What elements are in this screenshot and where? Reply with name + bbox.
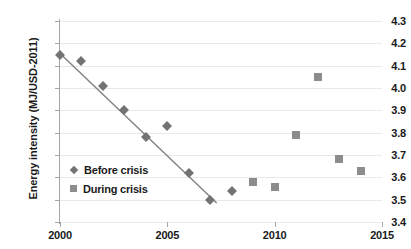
- data-point-during-crisis: [314, 73, 322, 81]
- legend-label-during-crisis: During crisis: [83, 183, 148, 195]
- data-point-during-crisis: [335, 155, 343, 163]
- data-point-during-crisis: [271, 183, 279, 191]
- y-axis-title: Energy intensity (MJ/USD-2011): [22, 0, 44, 243]
- square-marker-icon: [70, 185, 77, 192]
- data-point-during-crisis: [292, 131, 300, 139]
- x-tick-mark: [275, 222, 276, 227]
- data-point-during-crisis: [249, 178, 257, 186]
- data-point-before-crisis: [162, 121, 172, 131]
- data-point-before-crisis: [98, 81, 108, 91]
- x-tick-mark: [60, 222, 61, 227]
- data-point-during-crisis: [357, 167, 365, 175]
- data-point-before-crisis: [205, 195, 215, 205]
- legend-item-during-crisis: During crisis: [70, 179, 148, 198]
- data-point-before-crisis: [119, 105, 129, 115]
- data-point-before-crisis: [141, 132, 151, 142]
- x-tick-label: 2000: [30, 229, 90, 241]
- chart-legend: Before crisis During crisis: [70, 160, 148, 198]
- data-point-before-crisis: [77, 56, 87, 66]
- x-tick-mark: [382, 222, 383, 227]
- legend-item-before-crisis: Before crisis: [70, 160, 148, 179]
- data-point-before-crisis: [184, 168, 194, 178]
- x-tick-label: 2015: [352, 229, 411, 241]
- x-tick-mark: [167, 222, 168, 227]
- data-point-before-crisis: [55, 50, 65, 60]
- data-point-before-crisis: [227, 186, 237, 196]
- diamond-marker-icon: [70, 165, 78, 173]
- legend-label-before-crisis: Before crisis: [84, 164, 148, 176]
- x-tick-label: 2005: [137, 229, 197, 241]
- gridline: [60, 222, 382, 223]
- x-tick-label: 2010: [245, 229, 305, 241]
